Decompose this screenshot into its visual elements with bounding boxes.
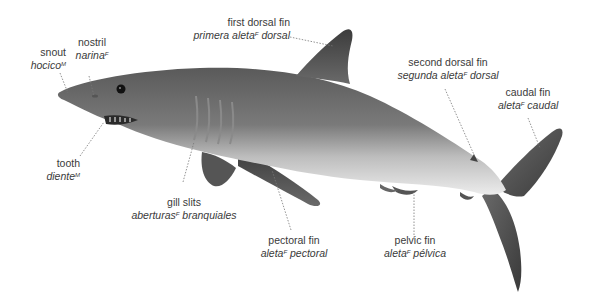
anal-fin <box>460 192 474 200</box>
caudal-fin-upper <box>500 129 563 197</box>
first-dorsal-fin <box>296 29 353 84</box>
label-gill-slits: gill slits aberturasF branquiales <box>116 196 252 222</box>
label-caudal-fin: caudal fin aletaF caudal <box>498 86 558 112</box>
label-nostril: nostril narinaF <box>70 36 114 62</box>
label-pectoral-fin: pectoral fin aletaF pectoral <box>254 234 334 260</box>
label-pelvic-fin: pelvic fin aletaF pélvica <box>380 234 450 260</box>
label-snout: snout hocicoM <box>6 46 66 72</box>
eye <box>117 85 126 94</box>
label-first-dorsal-fin: first dorsal fin primera aletaF dorsal <box>180 16 290 42</box>
label-second-dorsal-fin: second dorsal fin segunda aletaF dorsal <box>388 56 508 82</box>
nostril <box>92 95 98 98</box>
caudal-fin-lower <box>482 188 521 292</box>
shark-anatomy-diagram: snout hocicoM nostril narinaF first dors… <box>0 0 595 307</box>
label-tooth: tooth dienteM <box>30 157 80 183</box>
